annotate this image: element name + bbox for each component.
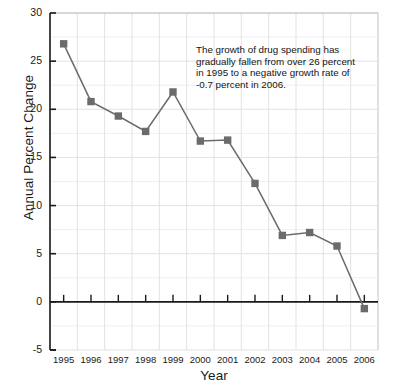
data-point-marker [279,232,286,239]
data-point-marker [361,305,368,312]
data-point-marker [87,98,94,105]
annotation-line-3: in 1995 to a negative growth rate of [196,67,382,79]
data-point-marker [251,180,258,187]
chart-figure: Annual Percent Change Year 302520151050-… [0,0,398,391]
y-axis-tick-label: 25 [20,54,42,66]
annotation-line-2: gradually fallen from over 26 percent [196,56,382,68]
data-point-marker [115,112,122,119]
y-axis-tick-label: 0 [20,295,42,307]
x-axis-title: Year [50,368,378,383]
y-axis-tick-label: 20 [20,102,42,114]
data-point-marker [333,242,340,249]
data-point-marker [306,229,313,236]
y-axis-tick-label: 30 [20,6,42,18]
chart-annotation: The growth of drug spending has graduall… [196,44,382,90]
y-axis-tick-label: -5 [20,343,42,355]
data-point-marker [224,136,231,143]
annotation-line-4: -0.7 percent in 2006. [196,79,382,91]
data-point-marker [197,137,204,144]
data-point-marker [60,40,67,47]
x-axis-tick-label: 2006 [347,354,381,365]
y-axis-tick-label: 10 [20,199,42,211]
y-axis-tick-label: 15 [20,150,42,162]
y-axis-tick-label: 5 [20,247,42,259]
data-point-marker [169,88,176,95]
annotation-line-1: The growth of drug spending has [196,44,382,56]
data-point-marker [142,128,149,135]
